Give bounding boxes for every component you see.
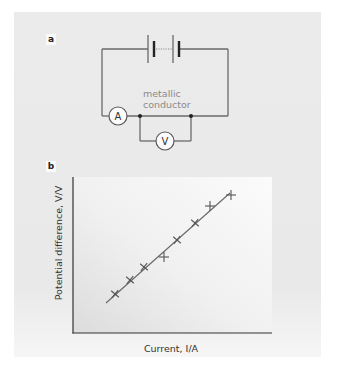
- junction-dot-left: [138, 114, 142, 118]
- x-axis-label: Current, I/A: [144, 343, 199, 354]
- ammeter-symbol: A: [115, 111, 122, 122]
- junction-dot-right: [189, 114, 193, 118]
- battery-icon: [148, 35, 179, 63]
- figure-svg: A V metallic conductor Potential differe…: [0, 0, 337, 374]
- voltmeter-symbol: V: [162, 136, 169, 147]
- y-axis-label: Potential difference, V/V: [53, 185, 64, 300]
- ammeter-icon: A: [109, 107, 127, 125]
- conductor-label-line2: conductor: [143, 99, 191, 110]
- conductor-label-line1: metallic: [143, 88, 181, 99]
- voltmeter-icon: V: [156, 132, 174, 150]
- plot-area: [73, 177, 272, 333]
